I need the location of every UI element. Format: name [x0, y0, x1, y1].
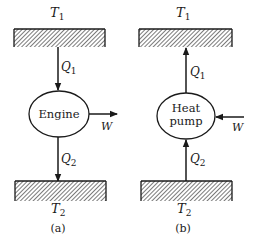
heat-flow-q1-label-a: Q1: [61, 60, 77, 76]
panel-a-engine: T1 Q1 Engine W Q2 T2 (a): [14, 5, 117, 235]
heat-pump-label-line1: Heat: [172, 101, 201, 115]
panel-b-heat-pump: T1 Q1 Heat pump W Q2 T2 (b): [139, 5, 245, 235]
hot-reservoir-b: [139, 29, 232, 47]
hot-reservoir-a: [14, 29, 105, 47]
hot-reservoir-label-b: T1: [176, 5, 190, 22]
hot-reservoir-label-a: T1: [50, 5, 64, 22]
work-label-a: W: [101, 120, 114, 133]
caption-a: (a): [50, 222, 65, 235]
heat-pump-label-line2: pump: [169, 114, 202, 128]
cold-reservoir-label-a: T2: [51, 201, 65, 218]
cold-reservoir-b: [141, 181, 232, 201]
work-label-b: W: [232, 121, 245, 134]
caption-b: (b): [175, 222, 191, 235]
heat-flow-q1-label-b: Q1: [190, 65, 206, 81]
cold-reservoir-a: [15, 181, 106, 201]
heat-flow-q2-label-b: Q2: [190, 152, 206, 168]
heat-engine-heat-pump-diagram: T1 Q1 Engine W Q2 T2 (a): [0, 0, 253, 239]
cold-reservoir-label-b: T2: [177, 201, 191, 218]
heat-flow-q2-label-a: Q2: [61, 152, 77, 168]
engine-label: Engine: [38, 107, 79, 121]
